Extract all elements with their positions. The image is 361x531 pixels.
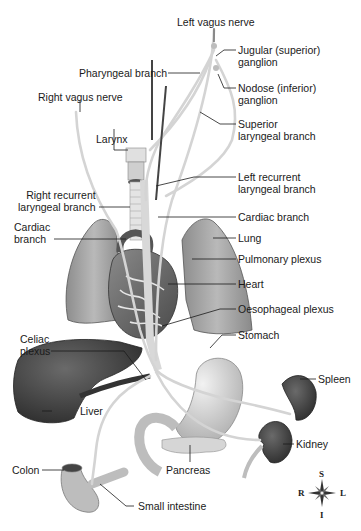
- label-cardiac-branch-left-side: Cardiac branch: [238, 211, 309, 223]
- nodose-ganglion: [213, 65, 219, 71]
- label-celiac-plexus: Celiac plexus: [20, 333, 50, 357]
- label-larynx: Larynx: [96, 133, 128, 145]
- label-left-vagus-nerve: Left vagus nerve: [177, 16, 255, 28]
- vagus-nerve-diagram: [0, 0, 361, 531]
- pancreas: [162, 437, 226, 453]
- label-left-recurrent-laryngeal-branch: Left recurrent laryngeal branch: [238, 171, 316, 195]
- compass-superior: S: [319, 469, 324, 479]
- label-heart: Heart: [238, 278, 264, 290]
- label-stomach: Stomach: [238, 329, 279, 341]
- label-superior-laryngeal-branch: Superior laryngeal branch: [238, 118, 316, 142]
- label-cardiac-branch-right-side: Cardiac branch: [14, 221, 50, 245]
- label-pancreas: Pancreas: [166, 464, 210, 476]
- colon-opening: [62, 464, 82, 472]
- label-right-vagus-nerve: Right vagus nerve: [38, 91, 123, 103]
- label-pulmonary-plexus: Pulmonary plexus: [238, 253, 321, 265]
- label-lung: Lung: [238, 232, 261, 244]
- label-oesophageal-plexus: Oesophageal plexus: [238, 303, 334, 315]
- compass-rose: [308, 479, 336, 507]
- label-jugular-ganglion: Jugular (superior) ganglion: [238, 44, 320, 68]
- compass-right: R: [298, 488, 305, 498]
- label-small-intestine: Small intestine: [138, 500, 206, 512]
- label-kidney: Kidney: [296, 438, 328, 450]
- label-pharyngeal-branch: Pharyngeal branch: [79, 67, 167, 79]
- jugular-ganglion: [211, 43, 217, 49]
- label-right-recurrent-laryngeal-branch: Right recurrent laryngeal branch: [18, 189, 96, 213]
- label-nodose-ganglion: Nodose (inferior) ganglion: [238, 82, 316, 106]
- kidney: [259, 422, 292, 463]
- compass-left: L: [340, 488, 346, 498]
- label-liver: Liver: [80, 405, 103, 417]
- small-intestine: [92, 472, 124, 484]
- label-colon: Colon: [12, 464, 39, 476]
- label-spleen: Spleen: [318, 373, 351, 385]
- ureter: [244, 446, 262, 478]
- compass-inferior: I: [320, 510, 324, 520]
